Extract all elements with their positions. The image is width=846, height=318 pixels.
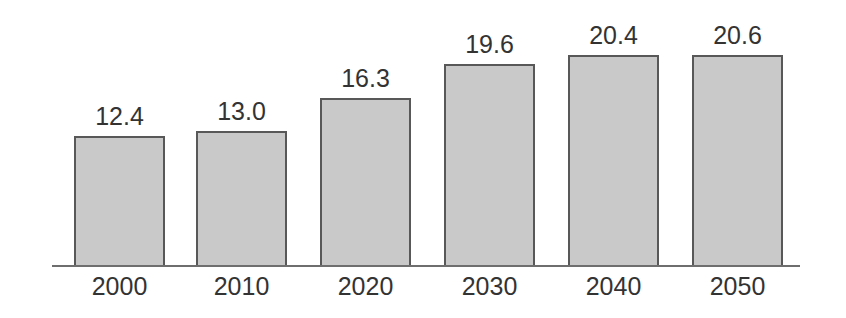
- bar-2030[interactable]: [444, 64, 535, 267]
- x-tick-label-2000: 2000: [74, 274, 165, 299]
- bar-chart: 12.4 2000 13.0 2010 16.3 2020 19.6 2030 …: [0, 0, 846, 318]
- bar-value-2030: 19.6: [444, 32, 535, 57]
- bar-value-2050: 20.6: [692, 23, 783, 48]
- bar-value-2010: 13.0: [196, 99, 287, 124]
- x-tick-label-2010: 2010: [196, 274, 287, 299]
- bar-2000[interactable]: [74, 136, 165, 267]
- bar-2010[interactable]: [196, 131, 287, 267]
- x-tick-label-2020: 2020: [320, 274, 411, 299]
- x-tick-label-2050: 2050: [692, 274, 783, 299]
- bar-2040[interactable]: [568, 55, 659, 267]
- bar-value-2000: 12.4: [74, 104, 165, 129]
- plot-area: 12.4 2000 13.0 2010 16.3 2020 19.6 2030 …: [0, 0, 846, 318]
- bar-value-2040: 20.4: [568, 23, 659, 48]
- x-tick-label-2030: 2030: [444, 274, 535, 299]
- bar-2050[interactable]: [692, 55, 783, 267]
- bar-series: 12.4 2000 13.0 2010 16.3 2020 19.6 2030 …: [0, 0, 846, 318]
- x-tick-label-2040: 2040: [568, 274, 659, 299]
- x-axis-line: [52, 265, 800, 267]
- bar-value-2020: 16.3: [320, 66, 411, 91]
- bar-2020[interactable]: [320, 98, 411, 267]
